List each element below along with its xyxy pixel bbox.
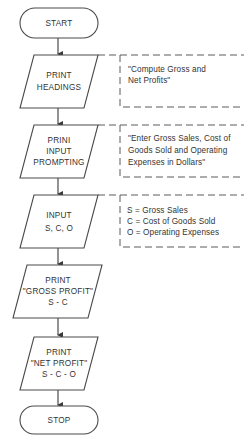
node-line: PRINT: [46, 348, 72, 357]
annotation-line: "Enter Gross Sales, Cost of: [128, 134, 231, 143]
node-line: PRINT: [46, 71, 72, 80]
node-line: "GROSS PROFIT": [23, 287, 93, 296]
annotation-line: O = Operating Expenses: [127, 228, 219, 237]
annotation-enter-values: "Enter Gross Sales, Cost of Goods Sold a…: [98, 125, 244, 177]
annotation-line: Expenses in Dollars": [128, 158, 205, 167]
annotation-compute-profits: "Compute Gross and Net Profits": [98, 55, 244, 107]
annotation-line: Net Profits": [128, 76, 170, 85]
annotation-line: "Compute Gross and: [128, 65, 206, 74]
flowchart: START PRINT HEADINGS PRINI INPUT PROMPTI…: [0, 0, 244, 448]
input-sco-node: INPUT S, C, O: [20, 195, 98, 248]
print-headings-node: PRINT HEADINGS: [20, 55, 98, 108]
node-line: S - C: [48, 298, 68, 307]
annotation-line: C = Cost of Goods Sold: [127, 217, 216, 226]
annotation-line: Goods Sold and Operating: [128, 146, 228, 155]
node-line: HEADINGS: [37, 83, 82, 92]
node-line: PROMPTING: [33, 158, 84, 167]
node-line: S, C, O: [45, 224, 73, 233]
node-line: INPUT: [46, 147, 72, 156]
start-label: START: [45, 19, 72, 28]
print-net-profit-node: PRINT "NET PROFIT" S - C - O: [20, 337, 98, 390]
stop-terminal: STOP: [20, 406, 98, 434]
print-input-prompting-node: PRINI INPUT PROMPTING: [20, 125, 98, 178]
start-terminal: START: [20, 8, 98, 38]
print-gross-profit-node: PRINT "GROSS PROFIT" S - C: [13, 265, 102, 318]
node-line: INPUT: [46, 211, 72, 220]
node-line: PRINT: [45, 276, 71, 285]
node-line: "NET PROFIT": [31, 359, 88, 368]
annotation-variable-legend: S = Gross Sales C = Cost of Goods Sold O…: [98, 195, 244, 247]
stop-label: STOP: [48, 416, 71, 425]
node-line: PRINI: [48, 136, 71, 145]
node-line: S - C - O: [42, 370, 76, 379]
annotation-line: S = Gross Sales: [127, 206, 188, 215]
